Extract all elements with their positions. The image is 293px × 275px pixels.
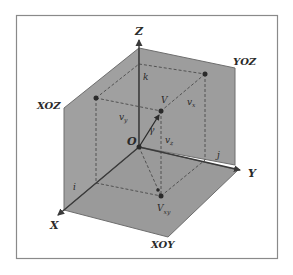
vxy-point <box>159 194 164 199</box>
vxz-point <box>94 96 99 101</box>
vxy-arrow-dot <box>156 188 160 192</box>
origin-point <box>137 145 142 150</box>
angle-gamma-label: γ <box>149 125 155 135</box>
coordinate-diagram: XOZ YOZ XOY Z X Y O k i j V γ vx vy vz V… <box>0 0 293 275</box>
xoz-label: XOZ <box>36 100 61 111</box>
vyz-point <box>203 72 208 77</box>
y-axis-label: Y <box>248 167 257 180</box>
unit-i-label: i <box>73 182 76 192</box>
yoz-label: YOZ <box>233 56 257 67</box>
xoy-label: XOY <box>150 239 175 250</box>
x-axis-label: X <box>49 219 59 232</box>
origin-label: O <box>127 135 137 148</box>
unit-k-label: k <box>143 72 148 82</box>
z-axis-label: Z <box>134 25 144 38</box>
v-point <box>159 109 164 114</box>
